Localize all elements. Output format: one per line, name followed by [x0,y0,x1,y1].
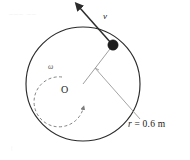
center-label: O [61,85,68,95]
radius-symbol: r [128,119,132,129]
radius-value: = 0.6 m [134,119,165,129]
figure-canvas [0,0,190,160]
radius-line [83,45,113,84]
particle-dot [108,40,118,50]
circular-motion-figure: ––– –– | v ω O r = 0.6 m [0,0,190,160]
angular-velocity-arc [34,77,83,127]
radius-label: r = 0.6 m [128,120,165,130]
velocity-label: v [103,12,107,21]
angular-velocity-label: ω [48,63,53,71]
radius-leader-line [95,68,140,119]
